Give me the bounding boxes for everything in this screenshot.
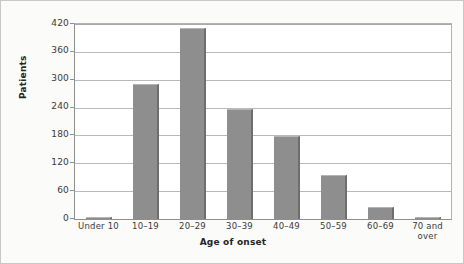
x-tick-label: 10–19 [122,221,169,231]
y-tick-mark [70,51,74,52]
y-tick-mark [70,107,74,108]
y-tick-mark [70,190,74,191]
x-tick-label-line: 20–29 [169,221,216,231]
y-tick-mark [70,134,74,135]
x-tick-label-line: 50–59 [310,221,357,231]
x-tick-label: Under 10 [75,221,122,231]
y-tick-label: 120 [37,158,69,167]
y-tick-label: 180 [37,130,69,139]
chart-figure: 060120180240300360420 Patients Under 101… [0,0,464,264]
x-tick-label-line: Under 10 [75,221,122,231]
x-tick-label-line: 40–49 [263,221,310,231]
x-tick-label: 50–59 [310,221,357,231]
x-tick-label: 40–49 [263,221,310,231]
y-tick-mark [70,218,74,219]
y-tick-label: 420 [37,19,69,28]
x-tick-label: 20–29 [169,221,216,231]
y-tick-mark [70,162,74,163]
x-tick-label-line: 10–19 [122,221,169,231]
x-tick-label: 30–39 [216,221,263,231]
x-axis-title: Age of onset [1,237,464,247]
y-tick-labels: 060120180240300360420 [37,1,69,264]
y-tick-label: 0 [37,214,69,223]
y-tick-label: 360 [37,46,69,55]
x-tick-label: 60–69 [357,221,404,231]
x-tick-label-line: 60–69 [357,221,404,231]
y-axis-title: Patients [18,55,28,99]
y-tick-label: 240 [37,102,69,111]
y-tick-label: 300 [37,74,69,83]
x-tick-label-line: 70 and [404,221,451,231]
y-tick-mark [70,79,74,80]
y-tick-mark [70,23,74,24]
y-tick-label: 60 [37,186,69,195]
x-tick-label-line: 30–39 [216,221,263,231]
